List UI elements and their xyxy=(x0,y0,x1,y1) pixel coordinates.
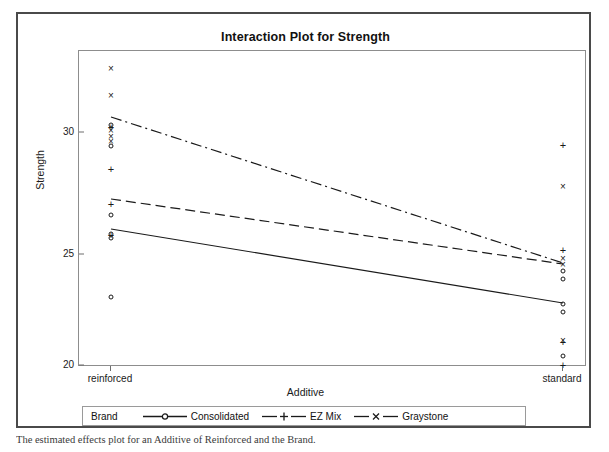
series-lines xyxy=(79,51,587,367)
series-line-consolidated xyxy=(111,229,563,303)
figure-caption: The estimated effects plot for an Additi… xyxy=(16,434,591,452)
legend-label-ez-mix: EZ Mix xyxy=(310,411,341,422)
legend-key-consolidated-solid-circle xyxy=(143,411,187,422)
legend: Brand Consolidated EZ Mix xyxy=(82,406,526,426)
data-point-consolidated xyxy=(109,144,114,149)
data-point-graystone xyxy=(108,64,114,74)
x-axis-title: Additive xyxy=(18,386,593,398)
legend-key-graystone-dashdot-x xyxy=(354,411,398,422)
data-point-graystone xyxy=(560,182,566,192)
data-point-consolidated xyxy=(561,354,566,359)
data-point-ez-mix xyxy=(560,141,566,151)
y-tick-label-20: 20 xyxy=(63,359,74,370)
x-tick-label-standard: standard xyxy=(543,373,582,384)
x-tick-mark-reinforced xyxy=(110,366,111,371)
data-point-ez-mix xyxy=(108,200,114,210)
chart-title: Interaction Plot for Strength xyxy=(18,30,593,44)
legend-entry-consolidated[interactable]: Consolidated xyxy=(143,411,249,422)
x-tick-label-reinforced: reinforced xyxy=(88,373,132,384)
y-axis-ticks: 30 25 20 xyxy=(36,50,74,366)
data-point-consolidated xyxy=(109,123,114,128)
x-tick-mark-standard xyxy=(562,366,563,371)
data-point-consolidated xyxy=(561,277,566,282)
data-point-consolidated xyxy=(561,269,566,274)
legend-key-ez-mix-dashed-plus xyxy=(262,411,306,422)
data-point-consolidated xyxy=(109,213,114,218)
data-point-ez-mix xyxy=(560,338,566,348)
data-point-graystone xyxy=(108,91,114,101)
legend-title: Brand xyxy=(91,411,118,422)
scanned-page-frame: Interaction Plot for Strength Strength 3… xyxy=(16,12,591,428)
y-tick-label-30: 30 xyxy=(63,126,74,137)
data-point-consolidated xyxy=(109,236,114,241)
legend-label-graystone: Graystone xyxy=(402,411,448,422)
y-tick-label-25: 25 xyxy=(63,248,74,259)
data-point-consolidated xyxy=(109,295,114,300)
legend-label-consolidated: Consolidated xyxy=(191,411,249,422)
series-line-graystone xyxy=(111,117,563,263)
legend-entry-graystone[interactable]: Graystone xyxy=(354,411,448,422)
data-point-consolidated xyxy=(561,310,566,315)
data-point-ez-mix xyxy=(108,165,114,175)
series-line-ez-mix xyxy=(111,199,563,264)
data-point-consolidated xyxy=(561,302,566,307)
x-axis-ticks: reinforced standard xyxy=(78,366,586,388)
plot-area xyxy=(78,50,586,366)
legend-entry-ez-mix[interactable]: EZ Mix xyxy=(262,411,341,422)
